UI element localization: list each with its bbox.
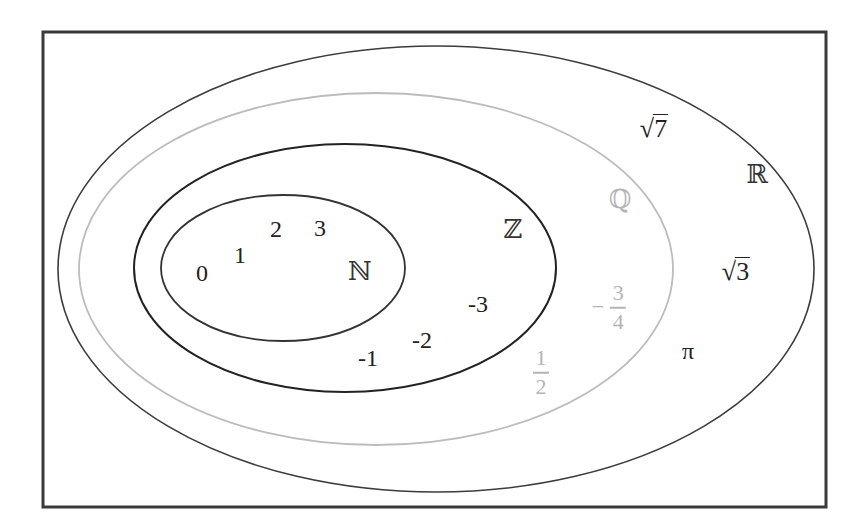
- radicand: 7: [653, 114, 668, 142]
- set-label-natural: ℕ: [348, 258, 372, 284]
- element-natural: 2: [270, 217, 282, 241]
- set-label-rational: ℚ: [609, 186, 632, 212]
- fraction-denominator: 2: [536, 375, 547, 397]
- fraction-denominator: 4: [613, 310, 624, 332]
- radical-sign-icon: √: [722, 259, 736, 285]
- element-irrational-pi: π: [682, 339, 694, 363]
- set-label-real: ℝ: [746, 161, 768, 187]
- element-irrational-sqrt: √ 7: [640, 114, 668, 142]
- element-natural: 1: [234, 243, 246, 267]
- element-integer: -3: [468, 292, 488, 316]
- element-natural: 0: [196, 261, 208, 285]
- radical-sign-icon: √: [640, 116, 654, 142]
- set-boundary-real: [58, 46, 814, 492]
- element-rational-fraction: 1 2: [533, 347, 549, 398]
- element-natural: 3: [314, 216, 326, 240]
- radicand: 3: [735, 257, 750, 285]
- fraction-numerator: 1: [536, 347, 547, 369]
- fraction-numerator: 3: [613, 282, 624, 304]
- element-irrational-sqrt: √ 3: [722, 257, 750, 285]
- element-rational-negative-fraction: − 3 4: [592, 282, 626, 333]
- element-integer: -1: [358, 346, 378, 370]
- minus-sign: −: [592, 294, 604, 320]
- element-integer: -2: [412, 328, 432, 352]
- set-label-integer: ℤ: [504, 216, 523, 242]
